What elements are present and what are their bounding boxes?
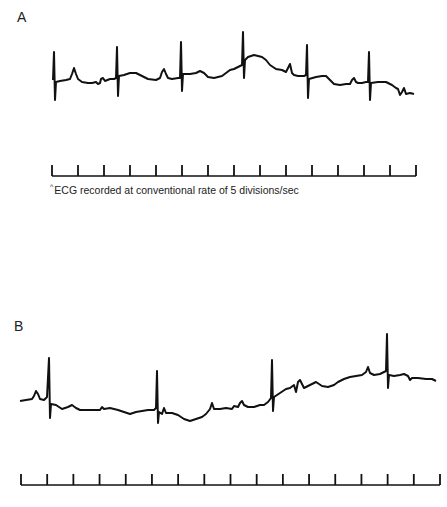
ecg-trace-a xyxy=(53,32,414,100)
ecg-figure xyxy=(0,0,447,507)
caption-mark: ^ xyxy=(50,183,53,190)
scale-caption: ^ECG recorded at conventional rate of 5 … xyxy=(50,183,299,196)
ecg-trace-b xyxy=(20,334,436,423)
time-scale-bar-b xyxy=(21,474,440,485)
time-scale-bar-a xyxy=(52,165,416,176)
caption-text: ECG recorded at conventional rate of 5 d… xyxy=(54,184,299,196)
